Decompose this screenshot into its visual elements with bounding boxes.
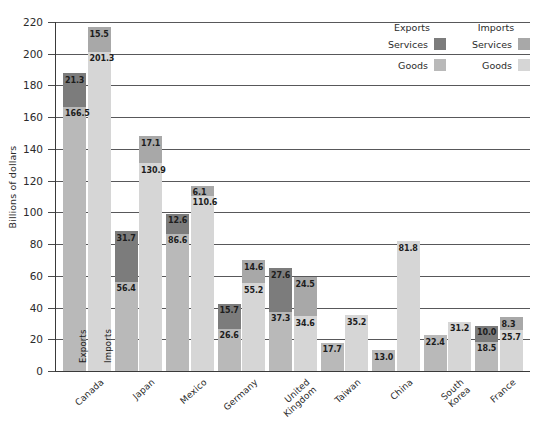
label-imports-goods: 25.7 [502, 333, 521, 342]
gridline [55, 22, 530, 23]
y-axis-title: Billions of dollars [6, 62, 20, 312]
label-imports-services: 8.3 [502, 320, 516, 329]
y-axis-tick-mark [48, 371, 55, 372]
gridline [55, 212, 530, 213]
label-imports-goods: 55.2 [244, 286, 263, 295]
label-exports-goods: 37.3 [271, 314, 290, 323]
y-axis-tick-mark [48, 85, 55, 86]
label-exports-goods: 166.5 [65, 109, 90, 118]
gridline [55, 54, 530, 55]
y-axis-tick-mark [48, 339, 55, 340]
bar-imports-china[interactable] [397, 241, 420, 371]
label-exports-services: 15.7 [220, 306, 239, 315]
label-exports-goods: 17.7 [323, 345, 342, 354]
segment-imports-goods [191, 196, 214, 371]
legend-label-imports-services: Services [432, 39, 512, 50]
y-axis-tick-mark [48, 308, 55, 309]
gridline [55, 85, 530, 86]
y-axis-tick-label: 20 [13, 334, 43, 344]
label-exports-services: 31.7 [117, 234, 136, 243]
y-axis-tick-mark [48, 22, 55, 23]
y-axis-tick-label: 220 [13, 17, 43, 27]
label-imports-goods: 31.2 [450, 324, 469, 333]
y-axis-line [55, 22, 56, 372]
segment-imports-goods [88, 52, 111, 371]
label-imports-goods: 81.8 [399, 244, 418, 253]
y-axis-tick-mark [48, 244, 55, 245]
gridline [55, 117, 530, 118]
bar-imports-germany[interactable] [242, 260, 265, 371]
label-imports-goods: 130.9 [141, 166, 166, 175]
bar-imports-canada[interactable] [88, 27, 111, 371]
bar-imports-mexico[interactable] [191, 186, 214, 371]
legend-swatch-imports-goods [518, 59, 530, 71]
y-axis-tick-mark [48, 54, 55, 55]
label-imports-services: 6.1 [193, 188, 207, 197]
label-exports-goods: 13.0 [374, 353, 393, 362]
x-axis-category-label: Canada [10, 377, 106, 428]
segment-imports-goods [139, 163, 162, 371]
label-imports-goods: 34.6 [296, 319, 315, 328]
label-exports-goods: 86.6 [168, 236, 187, 245]
label-exports-goods: 56.4 [117, 284, 136, 293]
y-axis-tick-mark [48, 181, 55, 182]
label-exports-services: 12.6 [168, 216, 187, 225]
label-exports-goods: 22.4 [426, 338, 445, 347]
segment-exports-goods [115, 282, 138, 371]
bar-exports-japan[interactable] [115, 231, 138, 371]
inbar-label-exports: Exports [78, 329, 88, 363]
legend-header-imports: Imports [464, 22, 528, 33]
legend-label-exports-goods: Goods [348, 60, 428, 71]
label-imports-goods: 110.6 [193, 198, 218, 207]
segment-imports-goods [242, 283, 265, 371]
label-imports-goods: 201.3 [90, 54, 115, 63]
label-exports-services: 10.0 [477, 328, 496, 337]
label-exports-services: 27.6 [271, 271, 290, 280]
legend-label-imports-goods: Goods [432, 60, 512, 71]
y-axis-tick-label: 200 [13, 49, 43, 59]
y-axis-tick-mark [48, 212, 55, 213]
label-exports-goods: 18.5 [477, 344, 496, 353]
y-axis-tick-mark [48, 276, 55, 277]
inbar-label-imports: Imports [103, 329, 113, 363]
label-imports-services: 24.5 [296, 280, 315, 289]
y-axis-tick-mark [48, 149, 55, 150]
label-exports-goods: 26.6 [220, 331, 239, 340]
label-exports-services: 21.3 [65, 76, 84, 85]
legend-swatch-imports-services [518, 38, 530, 50]
label-imports-services: 15.5 [90, 30, 109, 39]
segment-exports-goods [166, 234, 189, 371]
bar-chart: 020406080100120140160180200220Billions o… [0, 0, 542, 428]
y-axis-tick-label: 0 [13, 366, 43, 376]
y-axis-tick-mark [48, 117, 55, 118]
label-imports-goods: 35.2 [347, 318, 366, 327]
x-axis-line [55, 371, 530, 372]
legend-header-exports: Exports [380, 22, 444, 33]
label-imports-services: 14.6 [244, 263, 263, 272]
gridline [55, 181, 530, 182]
label-imports-services: 17.1 [141, 139, 160, 148]
legend-label-exports-services: Services [348, 39, 428, 50]
segment-imports-goods [397, 241, 420, 371]
gridline [55, 149, 530, 150]
